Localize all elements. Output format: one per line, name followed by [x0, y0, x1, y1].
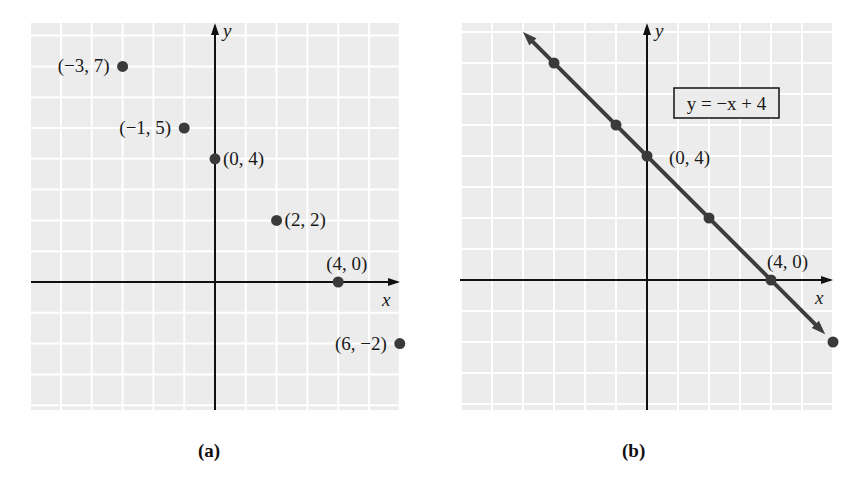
y-axis-label: y: [653, 20, 664, 41]
caption-b: (b): [622, 440, 645, 462]
line-data-point: [549, 58, 560, 69]
point-label: (4, 0): [767, 251, 808, 273]
scatter-plot-svg: xy(−3, 7)(−1, 5)(0, 4)(2, 2)(4, 0)(6, −2…: [0, 0, 431, 489]
data-point: [210, 153, 221, 164]
caption-a: (a): [198, 440, 220, 462]
point-label: (−1, 5): [119, 117, 171, 139]
panel-a-scatter-plot: xy(−3, 7)(−1, 5)(0, 4)(2, 2)(4, 0)(6, −2…: [0, 0, 431, 489]
panel-b-line-plot: xy(0, 4)(4, 0)y = −x + 4: [431, 0, 862, 489]
data-point: [271, 215, 282, 226]
point-label: (6, −2): [335, 333, 387, 355]
point-label: (2, 2): [285, 209, 326, 231]
data-point: [333, 277, 344, 288]
line-data-point: [704, 213, 715, 224]
x-axis-label: x: [381, 289, 391, 310]
point-label: (0, 4): [223, 148, 264, 170]
data-point: [117, 61, 128, 72]
point-label: (0, 4): [669, 147, 710, 169]
data-point: [179, 123, 190, 134]
point-label: (−3, 7): [58, 55, 110, 77]
equation-label: y = −x + 4: [687, 93, 767, 114]
line-data-point: [642, 151, 653, 162]
data-point: [394, 338, 405, 349]
line-data-point: [828, 337, 839, 348]
line-data-point: [766, 275, 777, 286]
y-axis-label: y: [221, 20, 232, 41]
line-plot-svg: xy(0, 4)(4, 0)y = −x + 4: [431, 0, 862, 489]
line-data-point: [611, 120, 622, 131]
point-label: (4, 0): [326, 253, 367, 275]
x-axis-label: x: [814, 287, 824, 308]
